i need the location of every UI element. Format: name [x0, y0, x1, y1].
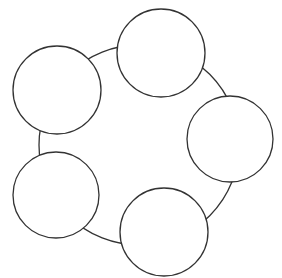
- node-top-left: [13, 46, 101, 134]
- node-right: [187, 96, 273, 182]
- cycle-diagram: [0, 0, 282, 278]
- node-top: [117, 9, 205, 97]
- node-bottom-left: [13, 152, 99, 238]
- cycle-nodes: [13, 9, 273, 276]
- node-bottom: [120, 188, 208, 276]
